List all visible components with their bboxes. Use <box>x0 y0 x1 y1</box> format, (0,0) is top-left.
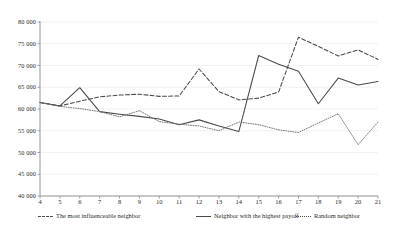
x-axis-tick-label: 6 <box>78 199 81 206</box>
series-lines <box>40 37 378 144</box>
x-axis-tick-label: 20 <box>355 199 362 206</box>
x-axis-tick-label: 4 <box>38 199 41 206</box>
legend-item[interactable]: Random neighbor <box>296 213 360 219</box>
x-axis-tick-label: 5 <box>58 199 61 206</box>
gridlines <box>40 22 378 196</box>
legend-label: The most influenceable neighbor <box>56 213 140 219</box>
x-axis-tick-label: 7 <box>98 199 101 206</box>
x-axis-tick-label: 10 <box>156 199 163 206</box>
x-axis-labels: 456789101112131415161718192021 <box>0 199 395 211</box>
series-line-0 <box>40 37 378 106</box>
x-axis-tick-label: 12 <box>196 199 203 206</box>
legend-item[interactable]: The most influenceable neighbor <box>38 213 140 219</box>
y-axis-tick-label: 70 000 <box>18 62 36 68</box>
legend-label: Neighbor with the highest payoff <box>214 213 299 219</box>
y-axis-tick-label: 55 000 <box>18 128 36 134</box>
legend-line-sample-solid-icon <box>196 216 211 217</box>
x-axis-tick-label: 19 <box>335 199 342 206</box>
y-axis-tick-label: 80 000 <box>18 19 36 25</box>
y-axis-tick-label: 75 000 <box>18 41 36 47</box>
y-axis-tick-label: 45 000 <box>18 171 36 177</box>
x-axis-tick-label: 8 <box>118 199 121 206</box>
x-axis-tick-label: 21 <box>375 199 382 206</box>
y-axis-tick-label: 50 000 <box>18 149 36 155</box>
legend-item[interactable]: Neighbor with the highest payoff <box>196 213 299 219</box>
x-axis-tick-label: 15 <box>255 199 262 206</box>
axis-lines <box>40 21 378 196</box>
y-axis-tick-label: 60 000 <box>18 106 36 112</box>
x-axis-tick-label: 14 <box>236 199 243 206</box>
x-axis-tick-label: 13 <box>216 199 223 206</box>
x-axis-tick-label: 17 <box>295 199 302 206</box>
y-axis-tick-label: 65 000 <box>18 84 36 90</box>
x-axis-tick-label: 18 <box>315 199 322 206</box>
series-line-1 <box>40 55 378 131</box>
x-axis-tick-label: 11 <box>176 199 182 206</box>
x-axis-tick-label: 16 <box>275 199 282 206</box>
chart-legend: The most influenceable neighborNeighbor … <box>0 213 395 229</box>
legend-line-sample-dashed-icon <box>38 216 53 217</box>
x-axis-tick-label: 9 <box>138 199 141 206</box>
line-chart: 40 00045 00050 00055 00060 00065 00070 0… <box>0 0 395 239</box>
legend-label: Random neighbor <box>314 213 360 219</box>
legend-line-sample-dotted-icon <box>296 216 311 217</box>
